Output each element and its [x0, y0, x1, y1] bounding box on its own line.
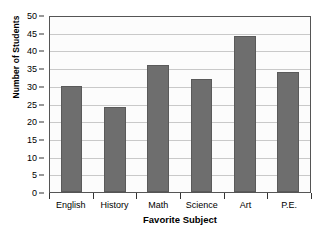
x-tick-mark: [49, 193, 50, 199]
y-tick-mark: [39, 139, 44, 140]
y-tick-label: 40: [27, 47, 37, 56]
bar-slot: [180, 17, 223, 192]
x-tick-mark: [136, 193, 137, 199]
y-tick-mark: [39, 175, 44, 176]
x-tick-mark: [180, 193, 181, 199]
y-tick-mark: [39, 157, 44, 158]
bar-slot: [137, 17, 180, 192]
x-tick-mark: [224, 193, 225, 199]
y-tick-label: 15: [27, 135, 37, 144]
y-tick-mark: [39, 86, 44, 87]
bar: [104, 107, 126, 192]
bar: [191, 79, 213, 192]
x-tick-label: P.E.: [267, 200, 311, 211]
bar-slot: [93, 17, 136, 192]
y-tick-label: 35: [27, 65, 37, 74]
y-tick-label: 50: [27, 12, 37, 21]
bar-slot: [50, 17, 93, 192]
x-tick-mark: [311, 193, 312, 199]
bar-slot: [267, 17, 310, 192]
y-tick-mark: [39, 69, 44, 70]
y-tick-mark: [39, 33, 44, 34]
x-tick-label: History: [93, 200, 137, 211]
x-axis-tick-labels: EnglishHistoryMathScienceArtP.E.: [49, 200, 311, 211]
bar: [61, 86, 83, 192]
bar: [277, 72, 299, 192]
plot-area: [49, 16, 311, 193]
y-tick-mark: [39, 16, 44, 17]
bars-group: [50, 17, 310, 192]
x-tick-label: Science: [180, 200, 224, 211]
bar-slot: [223, 17, 266, 192]
y-tick-mark: [39, 51, 44, 52]
x-tick-label: Art: [224, 200, 268, 211]
x-tick-label: Math: [136, 200, 180, 211]
bar: [234, 36, 256, 192]
y-axis-tick-labels: 05101520253035404550: [8, 16, 44, 193]
x-axis-title: Favorite Subject: [49, 214, 311, 225]
x-tick-label: English: [49, 200, 93, 211]
x-tick-mark: [93, 193, 94, 199]
y-tick-label: 10: [27, 153, 37, 162]
y-tick-mark: [39, 193, 44, 194]
y-tick-label: 30: [27, 82, 37, 91]
y-tick-label: 20: [27, 118, 37, 127]
bar: [147, 65, 169, 192]
y-tick-label: 0: [32, 189, 37, 198]
x-tick-mark: [267, 193, 268, 199]
bar-chart-figure: Number of Students 05101520253035404550 …: [0, 0, 324, 242]
y-tick-label: 5: [32, 171, 37, 180]
y-tick-mark: [39, 104, 44, 105]
y-tick-mark: [39, 122, 44, 123]
y-tick-label: 45: [27, 29, 37, 38]
x-axis-tick-marks: [49, 193, 311, 199]
chart-title: [0, 0, 324, 3]
y-tick-label: 25: [27, 100, 37, 109]
